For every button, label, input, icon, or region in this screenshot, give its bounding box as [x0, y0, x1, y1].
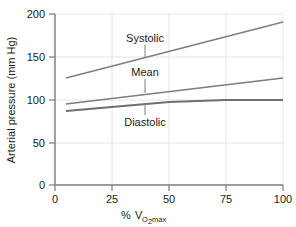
y-tick-label-50: 50 — [33, 137, 45, 149]
y-tick-label-100: 100 — [27, 94, 45, 106]
x-tick-label-25: 25 — [106, 193, 118, 205]
y-tick-label-200: 200 — [27, 8, 45, 20]
y-tick-label-0: 0 — [39, 179, 45, 191]
x-axis-title-percent: % — [121, 209, 131, 221]
series-label-diastolic: Diastolic — [124, 116, 166, 128]
x-tick-label-50: 50 — [163, 193, 175, 205]
y-tick-label-150: 150 — [27, 51, 45, 63]
x-tick-label-75: 75 — [220, 193, 232, 205]
arterial-pressure-line-chart: 200 150 100 50 0 0 25 50 75 100 Arterial… — [0, 0, 296, 227]
y-axis-title: Arterial pressure (mm Hg) — [5, 37, 17, 164]
x-tick-label-100: 100 — [274, 193, 292, 205]
chart-figure: 200 150 100 50 0 0 25 50 75 100 Arterial… — [0, 0, 296, 227]
series-label-mean: Mean — [131, 66, 159, 78]
x-tick-label-0: 0 — [52, 193, 58, 205]
x-axis-title-max: max — [152, 215, 166, 224]
series-label-systolic: Systolic — [126, 32, 164, 44]
